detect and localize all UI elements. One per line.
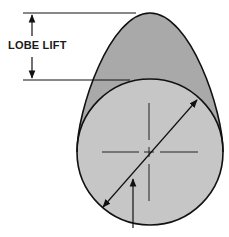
lobe-lift-label: LOBE LIFT bbox=[8, 39, 67, 51]
cam-lobe-diagram: LOBE LIFT bbox=[0, 0, 229, 237]
diagram-graphic bbox=[0, 0, 229, 237]
